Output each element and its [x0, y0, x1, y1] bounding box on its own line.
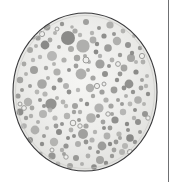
colony [69, 128, 74, 133]
colony [122, 86, 127, 91]
colony [60, 122, 64, 126]
colony [133, 108, 137, 112]
colony [118, 136, 122, 140]
colony [115, 78, 119, 82]
colony [20, 88, 24, 92]
colony-ring [78, 124, 82, 128]
colony [79, 98, 83, 102]
colony [48, 38, 53, 43]
colony-ring [50, 148, 54, 152]
colony [52, 115, 57, 120]
colony [133, 69, 138, 74]
colony [108, 103, 113, 108]
colony [94, 50, 99, 55]
colony [90, 75, 95, 80]
colony [130, 51, 134, 55]
colony [86, 68, 90, 72]
colony [85, 102, 89, 106]
colony [134, 60, 138, 64]
colony [42, 104, 46, 108]
colony [64, 104, 68, 108]
vertical-page-rule [168, 0, 169, 182]
colony [112, 32, 116, 36]
colony [76, 69, 87, 80]
colony [121, 65, 128, 72]
colony-ring [139, 53, 144, 58]
colony [138, 130, 142, 134]
colony [60, 148, 64, 152]
colony [64, 113, 70, 119]
colony [22, 62, 27, 67]
colony [73, 155, 79, 161]
colony [125, 42, 131, 48]
colony [106, 21, 113, 28]
colony [122, 143, 128, 149]
colony [28, 84, 32, 88]
colony [66, 136, 70, 140]
colony [95, 59, 104, 68]
colony [53, 68, 60, 75]
colony [108, 142, 112, 146]
colony [126, 128, 130, 132]
colony [31, 58, 35, 62]
colony [31, 126, 40, 135]
petri-dish-image [0, 0, 179, 182]
colony [118, 72, 123, 77]
figure-petri-dish: Agar plate with bacterial colonies [0, 0, 179, 182]
colony [78, 129, 88, 139]
colony [77, 118, 81, 122]
colony [125, 122, 129, 126]
colony [52, 86, 57, 91]
colony [94, 103, 103, 112]
colony [99, 89, 104, 94]
colony [24, 98, 32, 106]
colony [60, 22, 64, 26]
colony [53, 31, 57, 35]
colony [44, 66, 48, 70]
colony [68, 46, 74, 52]
colony [89, 137, 94, 142]
colony [101, 120, 106, 125]
colony [84, 140, 89, 145]
colony-ring [116, 62, 121, 67]
colony [40, 142, 44, 146]
colony [139, 86, 144, 91]
colony [72, 103, 78, 109]
colony [98, 142, 107, 151]
colony [50, 138, 58, 146]
colony [141, 60, 146, 65]
colony-ring [37, 24, 41, 28]
colony [76, 39, 89, 52]
colony [48, 152, 55, 159]
colony-ring [106, 112, 110, 116]
colony [119, 149, 125, 155]
colony [142, 102, 146, 106]
colony [108, 126, 113, 131]
colony [70, 25, 74, 29]
colony [34, 44, 38, 48]
colony [52, 62, 56, 66]
colony [146, 92, 150, 96]
colony [116, 131, 121, 136]
colony [61, 31, 75, 45]
colony [46, 76, 50, 80]
colony [88, 146, 92, 150]
colony-ring [55, 27, 59, 31]
colony [124, 94, 128, 98]
colony [145, 74, 149, 78]
colony [75, 141, 81, 147]
colony [48, 108, 53, 113]
colony [39, 110, 47, 118]
colony [103, 97, 108, 102]
colony [110, 154, 114, 158]
colony [80, 162, 84, 166]
colony [96, 156, 104, 164]
colony [93, 130, 97, 134]
colony [114, 140, 119, 145]
colony [42, 134, 46, 138]
colony [57, 45, 61, 49]
colony-ring [64, 155, 68, 159]
colony [116, 98, 120, 102]
colony [97, 26, 101, 30]
colony [118, 53, 122, 57]
